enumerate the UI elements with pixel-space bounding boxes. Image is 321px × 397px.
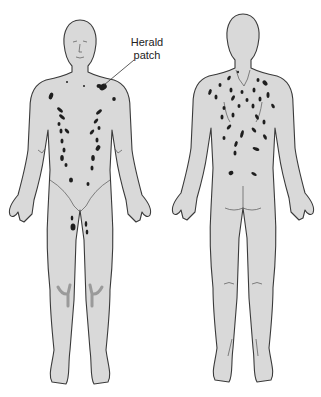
- herald-patch-label-line1: Herald: [123, 36, 171, 49]
- front-figure: [9, 20, 150, 384]
- herald-patch-label: Herald patch: [123, 36, 171, 62]
- herald-patch-label-line2: patch: [123, 49, 171, 62]
- herald-leader-line: [104, 60, 134, 85]
- back-figure: [172, 14, 313, 382]
